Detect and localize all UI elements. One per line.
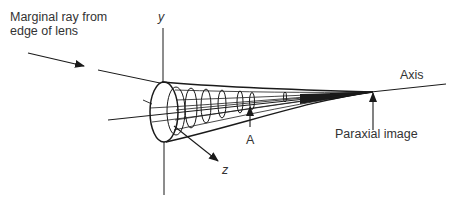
- point-a-label: A: [246, 133, 254, 147]
- marginal-ray-label-line1: Marginal ray from: [10, 10, 107, 24]
- paraxial-image-label: Paraxial image: [335, 127, 418, 141]
- marginal-ray-label-line2: edge of lens: [10, 24, 107, 38]
- marginal-ray-line: [98, 70, 160, 83]
- y-axis-label: y: [158, 10, 164, 24]
- marginal-ray-arrow-icon: [28, 53, 84, 66]
- axis-label: Axis: [400, 68, 424, 82]
- y-axis-line: [163, 28, 164, 195]
- marginal-ray-label: Marginal ray from edge of lens: [10, 10, 107, 38]
- z-axis-label: z: [222, 163, 228, 177]
